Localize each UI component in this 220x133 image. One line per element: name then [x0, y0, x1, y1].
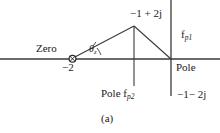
- pole-zero-diagram-figure: Zero −2 θz −1 + 2j Pole fp2 fp1 Pole −1−…: [0, 0, 220, 133]
- fp1-label: fp1: [181, 29, 192, 42]
- fp1-subscript: p1: [185, 33, 192, 42]
- zero-label: Zero: [36, 43, 57, 54]
- pole-fp2-text: Pole f: [101, 87, 127, 99]
- pole-fp2-subscript: p2: [127, 92, 134, 101]
- theta-subscript: z: [94, 48, 97, 55]
- angle-arc-theta-z: [97, 48, 101, 55]
- vector-zero-to-pole: [73, 26, 134, 58]
- zero-value-label: −2: [62, 62, 74, 73]
- pole-conjugate-value-label: −1− 2j: [177, 89, 206, 100]
- vector-pole-to-origin: [134, 26, 171, 59]
- figure-caption: (a): [101, 113, 113, 124]
- angle-theta-z-label: θz: [89, 44, 97, 56]
- pole-fp2-label: Pole fp2: [101, 88, 134, 101]
- pole-right-label: Pole: [176, 62, 196, 73]
- pole-value-label: −1 + 2j: [130, 8, 162, 19]
